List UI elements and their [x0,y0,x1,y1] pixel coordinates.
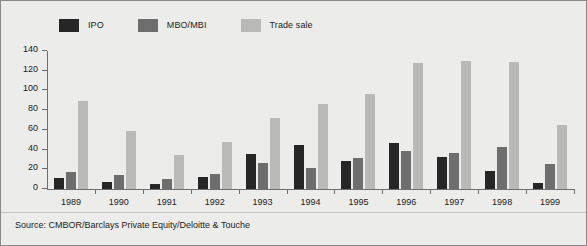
bar [318,104,328,189]
y-tick-mark [42,70,47,71]
y-tick-label: 100 [23,83,38,93]
bar [126,131,136,189]
bar [270,118,280,189]
x-tick-label: 1994 [300,197,320,207]
x-tick-mark [382,189,383,194]
y-tick-label: 120 [23,64,38,74]
bar [365,94,375,189]
source-note: Source: CMBOR/Barclays Private Equity/De… [15,220,250,230]
x-tick-label: 1999 [540,197,560,207]
bar [353,158,363,189]
plot-area: 0204060801001201401989199019911992199319… [47,51,574,189]
bar [545,164,555,189]
y-tick-label: 60 [28,123,38,133]
bar [222,142,232,189]
bar [162,179,172,189]
y-tick-mark [42,89,47,90]
x-tick-label: 1989 [61,197,81,207]
legend-swatch-icon [241,19,261,32]
bar [246,154,256,189]
x-tick-mark [239,189,240,194]
y-tick-label: 20 [28,162,38,172]
bar [509,62,519,189]
bar [413,63,423,189]
bar [557,125,567,189]
bar [341,161,351,189]
bar [210,174,220,189]
chart-legend: IPOMBO/MBITrade sale [59,15,347,35]
bar [258,163,268,189]
legend-label: MBO/MBI [167,20,207,30]
x-tick-label: 1995 [348,197,368,207]
y-tick-mark [42,149,47,150]
legend-swatch-icon [138,19,158,32]
legend-item: MBO/MBI [138,19,207,32]
x-tick-label: 1991 [157,197,177,207]
bar [294,145,304,189]
x-tick-mark [191,189,192,194]
legend-label: Trade sale [270,20,313,30]
bar [306,168,316,189]
x-tick-label: 1998 [492,197,512,207]
x-tick-label: 1993 [253,197,273,207]
y-tick-mark [42,109,47,110]
y-tick-mark [42,50,47,51]
x-tick-label: 1997 [444,197,464,207]
bar [497,147,507,189]
bar [150,184,160,189]
source-divider [1,212,587,213]
legend-swatch-icon [59,19,79,32]
legend-item: IPO [59,19,104,32]
x-tick-mark [478,189,479,194]
chart-figure: IPOMBO/MBITrade sale 0204060801001201401… [0,0,587,246]
bar [485,171,495,189]
bar [533,183,543,189]
x-tick-mark [287,189,288,194]
x-tick-label: 1992 [205,197,225,207]
bar [198,177,208,189]
y-tick-mark [42,168,47,169]
y-tick-label: 140 [23,44,38,54]
x-tick-label: 1996 [396,197,416,207]
y-tick-mark [42,188,47,189]
x-tick-mark [430,189,431,194]
bar [78,101,88,189]
y-tick-mark [42,129,47,130]
bar [54,178,64,189]
bar [102,182,112,189]
bar [461,61,471,189]
y-tick-label: 0 [33,182,38,192]
y-tick-label: 80 [28,103,38,113]
bar [66,172,76,189]
bar [389,143,399,189]
x-tick-mark [526,189,527,194]
x-tick-mark [95,189,96,194]
bar [174,155,184,190]
legend-item: Trade sale [241,19,313,32]
legend-label: IPO [88,20,104,30]
bar [437,157,447,189]
x-axis-line [47,189,574,190]
y-tick-label: 40 [28,143,38,153]
bar [449,153,459,189]
x-tick-label: 1990 [109,197,129,207]
x-tick-mark [143,189,144,194]
bar [114,175,124,189]
x-tick-mark [334,189,335,194]
bar [401,151,411,189]
x-tick-mark [574,189,575,194]
